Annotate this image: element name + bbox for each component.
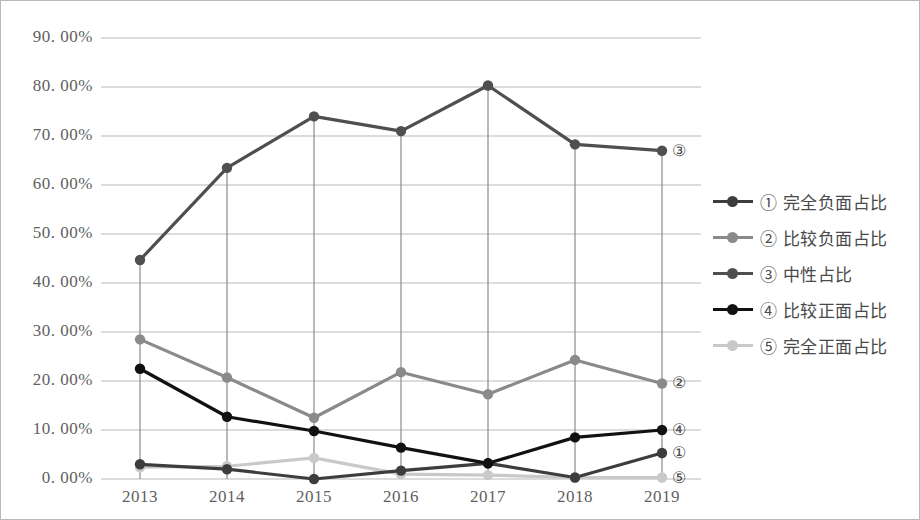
legend-marker-icon bbox=[727, 232, 738, 243]
series-endpoint-annotation: ⑤ bbox=[672, 468, 686, 487]
y-axis-tick-label: 10. 00% bbox=[15, 419, 93, 439]
y-axis-tick-label: 60. 00% bbox=[15, 174, 93, 194]
data-point-marker bbox=[483, 389, 493, 399]
data-point-marker bbox=[309, 474, 319, 484]
y-axis-tick-label: 30. 00% bbox=[15, 321, 93, 341]
legend-swatch-icon bbox=[713, 338, 753, 352]
data-point-marker bbox=[396, 367, 406, 377]
data-point-marker bbox=[657, 425, 667, 435]
data-point-marker bbox=[309, 413, 319, 423]
y-axis-tick-label: 40. 00% bbox=[15, 272, 93, 292]
data-point-marker bbox=[135, 364, 145, 374]
x-axis-tick-label: 2016 bbox=[361, 487, 441, 507]
legend-item-label: ② 比较负面占比 bbox=[760, 225, 888, 250]
legend-item-label: ⑤ 完全正面占比 bbox=[760, 333, 888, 358]
data-point-marker bbox=[135, 255, 145, 265]
series-endpoint-annotation: ② bbox=[672, 373, 686, 392]
x-axis-tick-label: 2013 bbox=[100, 487, 180, 507]
chart-legend: ① 完全负面占比② 比较负面占比③ 中性占比④ 比较正面占比⑤ 完全正面占比 bbox=[713, 183, 918, 363]
legend-item[interactable]: ③ 中性占比 bbox=[713, 255, 918, 291]
x-axis-tick-label: 2017 bbox=[448, 487, 528, 507]
legend-swatch-icon bbox=[713, 266, 753, 280]
legend-marker-icon bbox=[727, 304, 738, 315]
legend-swatch-icon bbox=[713, 230, 753, 244]
data-point-marker bbox=[396, 465, 406, 475]
data-point-marker bbox=[396, 126, 406, 136]
y-axis-tick-label: 50. 00% bbox=[15, 223, 93, 243]
data-point-marker bbox=[483, 458, 493, 468]
y-axis-tick-label: 80. 00% bbox=[15, 76, 93, 96]
data-point-marker bbox=[483, 80, 493, 90]
y-axis-tick-label: 0. 00% bbox=[15, 468, 93, 488]
data-point-marker bbox=[570, 432, 580, 442]
series-endpoint-annotation: ③ bbox=[672, 141, 686, 160]
legend-marker-icon bbox=[727, 268, 738, 279]
legend-swatch-icon bbox=[713, 194, 753, 208]
data-point-marker bbox=[570, 139, 580, 149]
data-point-marker bbox=[309, 453, 319, 463]
legend-marker-icon bbox=[727, 196, 738, 207]
x-axis-tick-label: 2014 bbox=[187, 487, 267, 507]
legend-item[interactable]: ② 比较负面占比 bbox=[713, 219, 918, 255]
legend-swatch-icon bbox=[713, 302, 753, 316]
data-point-marker bbox=[222, 412, 232, 422]
data-point-marker bbox=[222, 372, 232, 382]
x-axis-tick-label: 2019 bbox=[622, 487, 702, 507]
legend-item-label: ① 完全负面占比 bbox=[760, 189, 888, 214]
x-axis-tick-label: 2015 bbox=[274, 487, 354, 507]
data-point-marker bbox=[135, 334, 145, 344]
data-point-marker bbox=[396, 442, 406, 452]
series-endpoint-annotation: ① bbox=[672, 443, 686, 462]
data-point-marker bbox=[657, 146, 667, 156]
legend-item[interactable]: ④ 比较正面占比 bbox=[713, 291, 918, 327]
series-endpoint-annotation: ④ bbox=[672, 420, 686, 439]
data-point-marker bbox=[222, 163, 232, 173]
data-point-marker bbox=[657, 472, 667, 482]
chart-container: 90. 00%80. 00%70. 00%60. 00%50. 00%40. 0… bbox=[0, 0, 920, 520]
y-axis-tick-label: 20. 00% bbox=[15, 370, 93, 390]
data-point-marker bbox=[135, 459, 145, 469]
data-point-marker bbox=[309, 426, 319, 436]
legend-marker-icon bbox=[727, 340, 738, 351]
y-axis-tick-label: 70. 00% bbox=[15, 125, 93, 145]
legend-item-label: ③ 中性占比 bbox=[760, 261, 853, 286]
x-axis-tick-label: 2018 bbox=[535, 487, 615, 507]
data-point-marker bbox=[570, 472, 580, 482]
legend-item-label: ④ 比较正面占比 bbox=[760, 297, 888, 322]
data-point-marker bbox=[483, 470, 493, 480]
data-point-marker bbox=[222, 464, 232, 474]
data-point-marker bbox=[309, 111, 319, 121]
data-point-marker bbox=[657, 448, 667, 458]
y-axis-tick-label: 90. 00% bbox=[15, 27, 93, 47]
data-point-marker bbox=[657, 378, 667, 388]
legend-item[interactable]: ⑤ 完全正面占比 bbox=[713, 327, 918, 363]
data-point-marker bbox=[570, 355, 580, 365]
legend-item[interactable]: ① 完全负面占比 bbox=[713, 183, 918, 219]
